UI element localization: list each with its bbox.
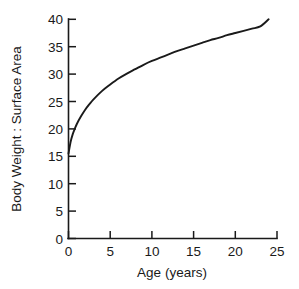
x-tick-label-0: 0: [65, 244, 73, 259]
y-tick-label-25: 25: [48, 95, 63, 110]
y-tick-label-20: 20: [48, 122, 63, 137]
y-tick-label-30: 30: [48, 67, 63, 82]
x-tick-label-5: 5: [106, 244, 114, 259]
x-tick-label-25: 25: [269, 244, 284, 259]
x-tick-label-15: 15: [186, 244, 201, 259]
x-axis-title: Age (years): [137, 265, 207, 280]
chart-svg: 0 5 10 15 20 25 30 35 40 0 5 10 15 20 25: [0, 0, 299, 289]
chart-figure: 0 5 10 15 20 25 30 35 40 0 5 10 15 20 25: [0, 0, 299, 289]
y-tick-label-35: 35: [48, 40, 63, 55]
y-axis-title: Body Weight : Surface Area: [9, 46, 24, 212]
y-tick-label-0: 0: [55, 232, 63, 247]
y-tick-label-10: 10: [48, 177, 63, 192]
x-tick-label-20: 20: [228, 244, 243, 259]
y-tick-label-15: 15: [48, 149, 63, 164]
y-tick-label-5: 5: [55, 204, 63, 219]
x-tick-label-10: 10: [144, 244, 159, 259]
y-tick-label-40: 40: [48, 12, 63, 27]
